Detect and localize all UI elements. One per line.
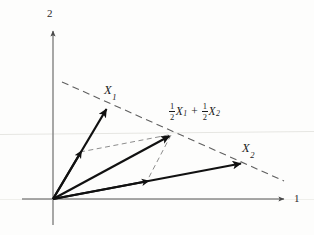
- vector-label-x2-base: X: [242, 141, 250, 155]
- sum-term-2-base: X: [208, 106, 215, 118]
- sum-term-1-numerator: 1: [169, 102, 175, 111]
- sum-term-1: 1 2 X1: [169, 102, 187, 121]
- sum-term-2: 1 2 X2: [202, 102, 220, 121]
- sum-operator: +: [191, 106, 198, 118]
- dashed-line-through-endpoints: [62, 82, 284, 181]
- vectors-group: [53, 109, 241, 199]
- axis-label-horizontal: 1: [294, 193, 300, 204]
- vector-label-x1: X1: [104, 84, 116, 99]
- sum-term-1-fraction: 1 2: [169, 102, 175, 121]
- axis-label-vertical: 2: [47, 8, 53, 19]
- vector-diagram-canvas: [0, 0, 314, 235]
- axes-group: [22, 31, 284, 225]
- sum-term-2-denominator: 2: [202, 111, 208, 121]
- vector-label-x1-subscript: 1: [112, 92, 116, 102]
- sum-term-2-subscript: 2: [216, 110, 220, 118]
- dashed-endpoint-line-group: [62, 82, 284, 181]
- vector-label-x2: X2: [242, 142, 254, 157]
- sum-term-1-base: X: [176, 106, 183, 118]
- sum-term-2-fraction: 1 2: [202, 102, 208, 121]
- vector-label-x2-subscript: 2: [250, 150, 254, 160]
- sum-term-1-subscript: 1: [183, 110, 187, 118]
- vector-label-sum: 1 2 X1 + 1 2 X2: [169, 102, 220, 121]
- sum-term-1-denominator: 2: [169, 111, 175, 121]
- vector-label-x1-base: X: [104, 83, 112, 97]
- sum-term-2-numerator: 1: [202, 102, 208, 111]
- vector-diagram-figure: 2 1 X1 X2 1 2 X1 + 1 2 X2: [0, 0, 314, 235]
